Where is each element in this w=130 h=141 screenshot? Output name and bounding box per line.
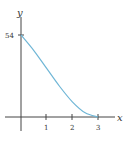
x-tick-label-2: 2 — [70, 124, 74, 132]
y-axis-label: y — [16, 7, 23, 18]
x-tick-label-3: 3 — [96, 124, 100, 132]
x-axis-label: x — [117, 112, 123, 123]
data-curve — [21, 35, 98, 117]
y-tick-label-54: 54 — [5, 32, 14, 40]
x-tick-label-1: 1 — [44, 124, 48, 132]
plot: y x 54 1 2 3 — [0, 0, 130, 141]
